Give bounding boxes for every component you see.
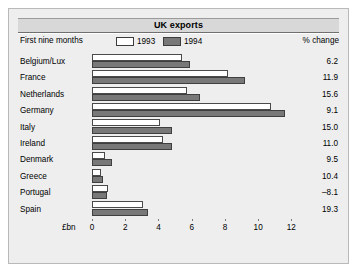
bar-1994 — [92, 127, 172, 134]
bar-1994 — [92, 209, 148, 216]
x-tick-mark — [125, 219, 126, 221]
chart-row: Denmark9.5 — [18, 151, 339, 167]
bar-1994 — [92, 61, 190, 68]
x-tick-label: 2 — [123, 223, 128, 232]
x-tick-label: 6 — [189, 223, 194, 232]
percent-change-value: 10.4 — [322, 172, 338, 181]
percent-change-column-header: % change — [303, 36, 339, 45]
bar-1994 — [92, 176, 103, 183]
category-label: Netherlands — [20, 90, 64, 99]
x-tick-mark — [225, 219, 226, 221]
legend-label-1993: 1993 — [137, 37, 155, 46]
category-label: France — [20, 73, 45, 82]
category-label: Spain — [20, 205, 41, 214]
bar-1993 — [92, 201, 143, 208]
bar-1994 — [92, 159, 112, 166]
x-tick-label: 8 — [223, 223, 228, 232]
chart-row: Germany9.1 — [18, 102, 339, 118]
x-tick-mark — [291, 219, 292, 221]
bar-1994 — [92, 192, 107, 199]
chart-row: Portugal–8.1 — [18, 184, 339, 200]
x-tick-label: 10 — [254, 223, 263, 232]
chart-figure: UK exports First nine months 1993 1994 %… — [8, 8, 349, 264]
plot-area: £bn 024681012 Belgium/Lux6.2France11.9Ne… — [18, 51, 339, 239]
chart-row: Belgium/Lux6.2 — [18, 53, 339, 69]
bar-1993 — [92, 185, 108, 192]
legend-label-1994: 1994 — [184, 37, 202, 46]
legend-swatch-1993-icon — [116, 37, 134, 46]
percent-change-value: 15.0 — [322, 123, 338, 132]
bar-1993 — [92, 152, 105, 159]
percent-change-value: 15.6 — [322, 90, 338, 99]
x-axis: £bn 024681012 — [18, 221, 339, 239]
chart-subtitle: First nine months — [20, 36, 83, 45]
category-label: Belgium/Lux — [20, 57, 65, 66]
bar-1993 — [92, 70, 228, 77]
chart-row: Ireland11.0 — [18, 135, 339, 151]
category-label: Denmark — [20, 155, 53, 164]
bar-1994 — [92, 110, 285, 117]
bar-1994 — [92, 143, 172, 150]
percent-change-value: 11.9 — [323, 73, 338, 82]
x-tick-label: 4 — [156, 223, 161, 232]
x-tick-mark — [192, 219, 193, 221]
legend: First nine months 1993 1994 % change — [18, 36, 339, 49]
x-tick-label: 12 — [287, 223, 296, 232]
category-label: Italy — [20, 123, 35, 132]
chart-row: Netherlands15.6 — [18, 86, 339, 102]
chart-row: France11.9 — [18, 69, 339, 85]
category-label: Portugal — [20, 188, 51, 197]
percent-change-value: –8.1 — [322, 188, 338, 197]
legend-item-1993: 1993 — [116, 36, 155, 47]
legend-swatch-1994-icon — [163, 37, 181, 46]
category-label: Germany — [20, 106, 54, 115]
bar-1993 — [92, 169, 101, 176]
x-tick-label: 0 — [90, 223, 95, 232]
percent-change-value: 6.2 — [327, 57, 338, 66]
bar-1993 — [92, 119, 160, 126]
x-tick-mark — [92, 219, 93, 221]
bar-1993 — [92, 103, 271, 110]
chart-row: Spain19.3 — [18, 201, 339, 217]
percent-change-value: 11.0 — [323, 139, 338, 148]
percent-change-value: 19.3 — [322, 205, 338, 214]
chart-row: Greece10.4 — [18, 168, 339, 184]
chart-title-bar: UK exports — [18, 18, 339, 33]
x-tick-mark — [258, 219, 259, 221]
legend-item-1994: 1994 — [163, 36, 202, 47]
percent-change-value: 9.5 — [327, 155, 338, 164]
category-label: Ireland — [20, 139, 45, 148]
bar-1993 — [92, 136, 163, 143]
x-tick-mark — [158, 219, 159, 221]
chart-row: Italy15.0 — [18, 119, 339, 135]
x-axis-unit-label: £bn — [62, 223, 76, 232]
legend-divider — [18, 33, 339, 34]
bar-1993 — [92, 54, 182, 61]
page-title: UK exports — [18, 20, 339, 30]
bar-1994 — [92, 94, 200, 101]
bar-1993 — [92, 87, 187, 94]
percent-change-value: 9.1 — [327, 106, 338, 115]
category-label: Greece — [20, 172, 47, 181]
bar-1994 — [92, 77, 245, 84]
